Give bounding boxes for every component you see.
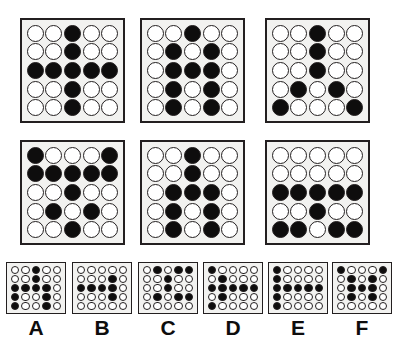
empty-circle-icon <box>379 284 388 293</box>
option-a[interactable]: A <box>6 262 66 340</box>
filled-circle-icon <box>273 275 282 284</box>
empty-circle-icon <box>153 284 162 293</box>
empty-circle-icon <box>208 293 217 302</box>
empty-circle-icon <box>53 284 62 293</box>
option-b[interactable]: B <box>72 262 132 340</box>
empty-circle-icon <box>221 99 238 116</box>
empty-circle-icon <box>290 62 307 79</box>
empty-circle-icon <box>45 221 62 238</box>
filled-circle-icon <box>208 284 217 293</box>
filled-circle-icon <box>165 43 182 60</box>
empty-circle-icon <box>337 275 346 284</box>
filled-circle-icon <box>64 25 81 42</box>
filled-circle-icon <box>218 275 227 284</box>
empty-circle-icon <box>328 165 345 182</box>
empty-circle-icon <box>83 184 100 201</box>
empty-circle-icon <box>98 266 107 275</box>
empty-circle-icon <box>328 147 345 164</box>
empty-circle-icon <box>294 266 303 275</box>
filled-circle-icon <box>203 184 220 201</box>
empty-circle-icon <box>290 165 307 182</box>
filled-circle-icon <box>42 284 51 293</box>
filled-circle-icon <box>328 184 345 201</box>
empty-circle-icon <box>147 62 164 79</box>
filled-circle-icon <box>273 302 282 311</box>
empty-circle-icon <box>87 302 96 311</box>
empty-circle-icon <box>184 221 201 238</box>
matrix-cell-4 <box>20 140 125 245</box>
filled-circle-icon <box>185 266 194 275</box>
filled-circle-icon <box>11 293 20 302</box>
empty-circle-icon <box>184 99 201 116</box>
empty-circle-icon <box>346 203 363 220</box>
empty-circle-icon <box>147 81 164 98</box>
matrix-cell-2-grid <box>140 18 245 123</box>
empty-circle-icon <box>143 284 152 293</box>
empty-circle-icon <box>11 275 20 284</box>
empty-circle-icon <box>164 266 173 275</box>
option-d[interactable]: D <box>203 262 263 340</box>
empty-circle-icon <box>119 266 128 275</box>
option-f[interactable]: F <box>332 262 392 340</box>
option-c-label: C <box>138 316 198 340</box>
empty-circle-icon <box>45 184 62 201</box>
empty-circle-icon <box>328 203 345 220</box>
filled-circle-icon <box>27 147 44 164</box>
empty-circle-icon <box>164 302 173 311</box>
option-d-label: D <box>203 316 263 340</box>
filled-circle-icon <box>290 221 307 238</box>
empty-circle-icon <box>203 147 220 164</box>
empty-circle-icon <box>143 302 152 311</box>
empty-circle-icon <box>294 302 303 311</box>
empty-circle-icon <box>379 275 388 284</box>
filled-circle-icon <box>309 25 326 42</box>
empty-circle-icon <box>147 165 164 182</box>
filled-circle-icon <box>309 43 326 60</box>
filled-circle-icon <box>42 293 51 302</box>
filled-circle-icon <box>184 62 201 79</box>
empty-circle-icon <box>185 302 194 311</box>
filled-circle-icon <box>165 99 182 116</box>
filled-circle-icon <box>27 165 44 182</box>
filled-circle-icon <box>208 302 217 311</box>
empty-circle-icon <box>119 302 128 311</box>
filled-circle-icon <box>108 293 117 302</box>
option-b-grid <box>72 262 132 314</box>
empty-circle-icon <box>221 43 238 60</box>
filled-circle-icon <box>203 221 220 238</box>
option-c[interactable]: C <box>138 262 198 340</box>
filled-circle-icon <box>184 184 201 201</box>
empty-circle-icon <box>290 147 307 164</box>
empty-circle-icon <box>98 275 107 284</box>
empty-circle-icon <box>83 25 100 42</box>
empty-circle-icon <box>45 25 62 42</box>
filled-circle-icon <box>309 184 326 201</box>
matrix-cell-5-grid <box>140 140 245 245</box>
filled-circle-icon <box>328 81 345 98</box>
empty-circle-icon <box>272 43 289 60</box>
empty-circle-icon <box>147 221 164 238</box>
empty-circle-icon <box>283 275 292 284</box>
empty-circle-icon <box>165 147 182 164</box>
empty-circle-icon <box>328 43 345 60</box>
filled-circle-icon <box>368 293 377 302</box>
option-e[interactable]: E <box>268 262 328 340</box>
empty-circle-icon <box>346 165 363 182</box>
empty-circle-icon <box>21 302 30 311</box>
empty-circle-icon <box>153 302 162 311</box>
empty-circle-icon <box>229 275 238 284</box>
filled-circle-icon <box>164 284 173 293</box>
empty-circle-icon <box>83 99 100 116</box>
filled-circle-icon <box>64 165 81 182</box>
option-c-grid <box>138 262 198 314</box>
empty-circle-icon <box>77 275 86 284</box>
empty-circle-icon <box>27 221 44 238</box>
empty-circle-icon <box>250 275 259 284</box>
empty-circle-icon <box>315 293 324 302</box>
empty-circle-icon <box>337 293 346 302</box>
empty-circle-icon <box>119 284 128 293</box>
filled-circle-icon <box>203 43 220 60</box>
filled-circle-icon <box>368 275 377 284</box>
option-f-label: F <box>332 316 392 340</box>
filled-circle-icon <box>64 221 81 238</box>
